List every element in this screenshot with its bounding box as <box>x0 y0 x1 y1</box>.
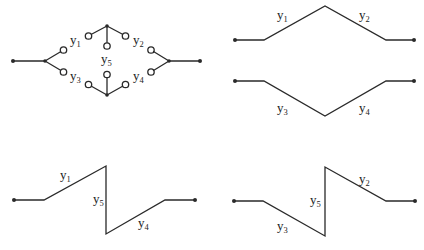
contact-y4-right <box>148 69 154 75</box>
left-terminal-node <box>11 59 15 63</box>
label-y4: y4 <box>138 215 150 232</box>
right-terminal-node <box>198 59 202 63</box>
label-y4: y4 <box>133 68 145 85</box>
top-left-branch <box>91 26 107 35</box>
label-y5: y5 <box>310 192 321 209</box>
bottom-right-branch <box>107 86 123 95</box>
left-upper-branch <box>45 52 61 62</box>
contact-y2-right <box>148 47 154 53</box>
path-y3-y5-y2-wire <box>234 167 415 236</box>
diagram-canvas: y1 y2 y3 y4 y5 y1 y2 y3 y4 y1 y5 y4 y3 y… <box>0 0 424 250</box>
label-y4: y4 <box>359 100 371 117</box>
path-y1-y5-y4-left-node <box>12 198 16 202</box>
path-y3-y5-y2-left-node <box>232 199 236 203</box>
label-y1: y1 <box>60 167 71 184</box>
label-y3: y3 <box>277 100 288 117</box>
contact-y3-right <box>85 81 91 87</box>
label-y3: y3 <box>277 218 288 235</box>
path-y1-y2-diagram: y1 y2 <box>233 6 416 42</box>
bottom-left-branch <box>91 86 107 95</box>
label-y5: y5 <box>93 191 104 208</box>
label-y5: y5 <box>101 51 112 68</box>
path-y3-y4-right-node <box>412 79 416 83</box>
path-y3-y4-wire <box>235 81 414 116</box>
contact-y2-left <box>122 33 128 39</box>
right-lower-branch <box>154 61 170 71</box>
top-right-branch <box>107 26 123 35</box>
label-y2: y2 <box>359 171 370 188</box>
path-y1-y2-wire <box>235 6 414 40</box>
contact-y1-left <box>60 47 66 53</box>
label-y2: y2 <box>133 32 144 49</box>
path-y1-y2-left-node <box>233 38 237 42</box>
path-y1-y5-y4-wire <box>14 166 195 234</box>
path-y3-y4-diagram: y3 y4 <box>233 79 416 117</box>
label-y1: y1 <box>70 32 81 49</box>
path-y1-y2-right-node <box>412 38 416 42</box>
path-y1-y5-y4-diagram: y1 y5 y4 <box>12 166 197 234</box>
bridge-network-diagram: y1 y2 y3 y4 y5 <box>11 24 202 97</box>
label-y3: y3 <box>70 68 81 85</box>
right-upper-branch <box>154 52 170 62</box>
path-y1-y5-y4-right-node <box>193 198 197 202</box>
contact-y5-top <box>104 43 110 49</box>
contact-y3-left <box>60 69 66 75</box>
contact-y4-left <box>122 81 128 87</box>
path-y3-y5-y2-diagram: y3 y5 y2 <box>232 167 417 236</box>
path-y3-y5-y2-right-node <box>413 199 417 203</box>
left-lower-branch <box>45 61 61 71</box>
path-y3-y4-left-node <box>233 79 237 83</box>
label-y2: y2 <box>359 7 370 24</box>
contact-y1-right <box>85 33 91 39</box>
label-y1: y1 <box>277 7 288 24</box>
contact-y5-bottom <box>104 71 110 77</box>
